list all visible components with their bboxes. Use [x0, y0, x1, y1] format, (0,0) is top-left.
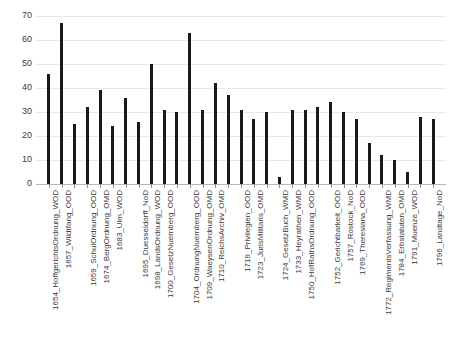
bar [124, 98, 127, 184]
bar [175, 112, 178, 184]
bar [252, 119, 255, 184]
x-tick [113, 184, 114, 188]
x-tick-label: 1719_Privilegien_OOD [244, 190, 252, 272]
bar [150, 64, 153, 184]
x-tick [203, 184, 204, 188]
bar [393, 160, 396, 184]
x-tick [382, 184, 383, 188]
x-tick-label: 1769_Theresiana_OOD [359, 190, 367, 275]
x-tick-label: 1700_GesetzNuernberg_OOD [167, 190, 175, 298]
x-tick-label: 1784_Erbstatuten_OMD [398, 190, 406, 276]
bar [137, 122, 140, 184]
x-tick [344, 184, 345, 188]
bar [419, 117, 422, 184]
x-tick-label: 1724_GesetzBuch_WMD [282, 190, 290, 280]
x-tick [139, 184, 140, 188]
x-tick [395, 184, 396, 188]
x-tick [62, 184, 63, 188]
bar [342, 112, 345, 184]
bar [111, 126, 114, 184]
x-tick [408, 184, 409, 188]
x-tick-label: 1772_RegimentsVerfassung_WMD [385, 190, 393, 315]
y-tick-label: 10 [2, 155, 32, 164]
x-tick [305, 184, 306, 188]
bar [368, 143, 371, 184]
bar [432, 119, 435, 184]
bar [227, 95, 230, 184]
x-tick-label: 1791_Muenze_WOD [411, 190, 419, 265]
x-tick [177, 184, 178, 188]
y-tick-label: 0 [2, 179, 32, 188]
x-axis: 1654_HoffgerichtsOrdnung_WOD1657_Wildtfa… [36, 184, 446, 350]
x-tick-label: 1683_Ulm_WOD [116, 190, 124, 250]
x-tick-label: 1657_Wildtfang_OOD [65, 190, 73, 268]
x-tick [279, 184, 280, 188]
x-tick-label: 1750_HofRathsOrdnung_OOD [308, 190, 316, 299]
x-tick-label: 1796_Landtage_NoD [436, 190, 444, 266]
x-tick-label: 1674_BergOrdnung_OMD [103, 190, 111, 283]
bar [99, 90, 102, 184]
y-tick-label: 30 [2, 107, 32, 116]
bar [291, 110, 294, 184]
bar [355, 119, 358, 184]
bar [188, 33, 191, 184]
x-tick [190, 184, 191, 188]
x-tick [215, 184, 216, 188]
bar [86, 107, 89, 184]
gridline [36, 16, 446, 17]
x-tick [49, 184, 50, 188]
bar [265, 112, 268, 184]
y-tick-label: 40 [2, 83, 32, 92]
bar [316, 107, 319, 184]
x-tick [420, 184, 421, 188]
x-tick [331, 184, 332, 188]
y-axis: 010203040506070 [0, 16, 32, 184]
x-tick [151, 184, 152, 188]
x-tick-label: 1723_JurisMilitaris_OMD [257, 190, 265, 279]
x-tick [318, 184, 319, 188]
gridline [36, 40, 446, 41]
bar-chart: 010203040506070 1654_HoffgerichtsOrdnung… [0, 0, 451, 350]
bar [47, 74, 50, 184]
x-tick [164, 184, 165, 188]
x-tick-label: 1752_Gerichtbarkeit_OOD [334, 190, 342, 285]
bar [278, 177, 281, 184]
bar [240, 110, 243, 184]
x-tick-label: 1659_SchulOrdnung_OOD [90, 190, 98, 286]
x-tick [369, 184, 370, 188]
bar [380, 155, 383, 184]
x-tick [254, 184, 255, 188]
gridline [36, 64, 446, 65]
gridline [36, 88, 446, 89]
bar [329, 102, 332, 184]
bar [201, 110, 204, 184]
plot-area [36, 16, 446, 184]
x-tick-label: 1695_Duesseldorff_NoD [142, 190, 150, 277]
y-tick-label: 70 [2, 11, 32, 20]
bar [214, 83, 217, 184]
y-tick-label: 20 [2, 131, 32, 140]
bar [60, 23, 63, 184]
bar [304, 110, 307, 184]
x-tick [267, 184, 268, 188]
y-tick-label: 60 [2, 35, 32, 44]
bar [73, 124, 76, 184]
x-tick-label: 1704_OrdnungNuernberg_OOD [193, 190, 201, 304]
x-tick [433, 184, 434, 188]
x-tick [74, 184, 75, 188]
x-tick-label: 1654_HoffgerichtsOrdnung_WOD [52, 190, 60, 310]
y-tick-label: 50 [2, 59, 32, 68]
x-tick-label: 1698_LandsOrdnung_WOD [154, 190, 162, 289]
x-tick-label: 1710_ReichsArchiv_OMD [218, 190, 226, 282]
bar [163, 110, 166, 184]
x-tick [100, 184, 101, 188]
x-tick-label: 1733_Heyrathen_WMD [295, 190, 303, 274]
x-tick-label: 1709_WaeysenOrdnung_OMD [206, 190, 214, 300]
x-tick-label: 1757_Rostock_NoD [347, 190, 355, 262]
x-tick [356, 184, 357, 188]
x-tick [87, 184, 88, 188]
x-tick [241, 184, 242, 188]
x-tick [292, 184, 293, 188]
x-tick [228, 184, 229, 188]
x-tick [126, 184, 127, 188]
